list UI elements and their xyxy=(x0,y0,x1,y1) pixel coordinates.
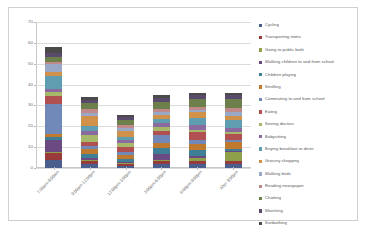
y-axis-tick-label: 70 xyxy=(28,20,33,24)
x-axis-labels: 7:30am-9:00am9:00am-12:00pm12:00pm-3:00p… xyxy=(36,170,251,222)
bar-slot xyxy=(72,22,108,168)
legend-swatch-icon xyxy=(259,222,262,225)
x-axis-tick-label: 3:00pm-6:00pm xyxy=(144,170,168,195)
x-axis-tick-label: After 9:00pm xyxy=(219,170,239,191)
stacked-bar[interactable] xyxy=(45,47,62,168)
legend-item-label: Cycling xyxy=(265,23,279,27)
y-axis-tick-label: 20 xyxy=(28,124,33,128)
legend-item-label: Babysitting xyxy=(265,135,286,139)
bar-segment xyxy=(225,120,242,128)
bar-segment xyxy=(153,135,170,143)
legend-swatch-icon xyxy=(259,73,262,76)
legend-item[interactable]: Strolling xyxy=(259,81,368,93)
bar-segment xyxy=(225,152,242,160)
legend-item[interactable]: Eating xyxy=(259,106,368,118)
legend-swatch-icon xyxy=(259,123,262,126)
legend-item-label: Eating xyxy=(265,110,277,114)
x-axis-tick-label: 12:00pm-3:00pm xyxy=(106,170,131,197)
legend-item-label: Transporting items xyxy=(265,35,301,39)
legend-item[interactable]: Reading newspaper xyxy=(259,180,368,192)
legend-swatch-icon xyxy=(259,160,262,163)
chart-container: 010203040506070 7:30am-9:00am9:00am-12:0… xyxy=(8,7,358,221)
legend-item-label: Walking birds xyxy=(265,172,291,176)
legend-item-label: Seeing doctors xyxy=(265,122,294,126)
bar-segment xyxy=(81,135,98,142)
legend-swatch-icon xyxy=(259,110,262,113)
legend-item-label: Strolling xyxy=(265,85,281,89)
legend-item[interactable]: Babysitting xyxy=(259,131,368,143)
x-axis-tick-label: 9:00am-12:00pm xyxy=(71,170,96,197)
bar-segment xyxy=(45,104,62,133)
bar-segment xyxy=(225,99,242,107)
bar-slot xyxy=(108,22,144,168)
bar-segment xyxy=(189,99,206,106)
legend-swatch-icon xyxy=(259,36,262,39)
bar-slot xyxy=(143,22,179,168)
stacked-bar[interactable] xyxy=(189,93,206,168)
bar-slot xyxy=(215,22,251,168)
y-axis-tick-label: 40 xyxy=(28,82,33,86)
y-axis-tick-label: 0 xyxy=(31,166,33,170)
legend-swatch-icon xyxy=(259,209,262,212)
legend-item[interactable]: Commuting to and from school xyxy=(259,93,368,105)
legend-item-label: Grocery shopping xyxy=(265,159,300,163)
legend-item[interactable]: Children playing xyxy=(259,69,368,81)
y-axis-tick-label: 50 xyxy=(28,62,33,66)
bar-segment xyxy=(45,76,62,89)
legend-swatch-icon xyxy=(259,48,262,51)
bar-segment xyxy=(189,132,206,140)
legend-item[interactable]: Going to public bath xyxy=(259,44,368,56)
legend-item-label: Going to public bath xyxy=(265,48,304,52)
legend-item-label: Children playing xyxy=(265,73,297,77)
stacked-bar[interactable] xyxy=(225,93,242,168)
x-axis-tick-label: 7:30am-9:00am xyxy=(36,170,60,195)
legend-item[interactable]: Transporting items xyxy=(259,31,368,43)
legend-swatch-icon xyxy=(259,185,262,188)
bar-segment xyxy=(81,116,98,126)
y-axis-tick-label: 30 xyxy=(28,103,33,107)
legend-item-label: Chatting xyxy=(265,196,281,200)
bar-group xyxy=(36,22,251,168)
stacked-bar[interactable] xyxy=(117,115,134,168)
bar-segment xyxy=(189,118,206,125)
legend-item[interactable]: Sunbathing xyxy=(259,217,368,229)
bar-slot xyxy=(36,22,72,168)
legend-swatch-icon xyxy=(259,85,262,88)
x-axis-tick-label: 6:00pm-9:00pm xyxy=(180,170,204,195)
stacked-bar[interactable] xyxy=(153,95,170,168)
legend-swatch-icon xyxy=(259,24,262,27)
legend-item-label: Walking children to and from school xyxy=(265,60,334,64)
y-axis-tick xyxy=(34,168,36,169)
legend-swatch-icon xyxy=(259,135,262,138)
bar-segment xyxy=(45,96,62,104)
legend-item[interactable]: Buying breakfast or diner xyxy=(259,143,368,155)
y-axis-tick-label: 60 xyxy=(28,41,33,45)
bar-segment xyxy=(225,142,242,149)
legend-item-label: Commuting to and from school xyxy=(265,97,325,101)
legend-swatch-icon xyxy=(259,172,262,175)
legend-item[interactable]: Walking birds xyxy=(259,168,368,180)
legend-item[interactable]: Watching xyxy=(259,205,368,217)
legend-item[interactable]: Walking children to and from school xyxy=(259,56,368,68)
bar-segment xyxy=(45,140,62,153)
legend-item[interactable]: Grocery shopping xyxy=(259,155,368,167)
legend-swatch-icon xyxy=(259,147,262,150)
legend-item-label: Sunbathing xyxy=(265,221,287,225)
gridline xyxy=(36,168,251,169)
legend-item-label: Buying breakfast or diner xyxy=(265,147,314,151)
bar-segment xyxy=(45,64,62,72)
legend-swatch-icon xyxy=(259,197,262,200)
legend-item[interactable]: Chatting xyxy=(259,192,368,204)
y-axis-tick-label: 10 xyxy=(28,145,33,149)
chart-legend: CyclingTransporting itemsGoing to public… xyxy=(259,19,368,230)
plot-area: 010203040506070 xyxy=(36,22,251,168)
stacked-bar[interactable] xyxy=(81,97,98,168)
legend-swatch-icon xyxy=(259,61,262,64)
legend-item[interactable]: Cycling xyxy=(259,19,368,31)
legend-swatch-icon xyxy=(259,98,262,101)
legend-item[interactable]: Seeing doctors xyxy=(259,118,368,130)
bar-slot xyxy=(179,22,215,168)
legend-item-label: Reading newspaper xyxy=(265,184,304,188)
legend-item-label: Watching xyxy=(265,209,283,213)
